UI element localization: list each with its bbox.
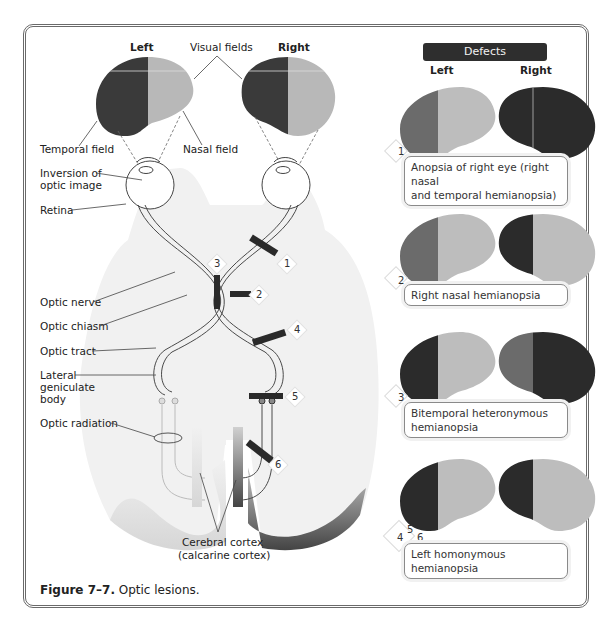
cortex-label-line2: (calcarine cortex) — [178, 549, 270, 561]
lesion-number-3: 3 — [214, 258, 220, 269]
defects-left-label: Left — [430, 64, 453, 76]
lesion-number-4: 4 — [294, 324, 300, 335]
right-eye-label: Right — [278, 41, 310, 53]
defect-4-number-c: 6 — [417, 532, 423, 543]
defect-1-left-field — [400, 87, 498, 162]
defects-header: Defects — [423, 43, 547, 61]
defect-4-number-a: 4 — [397, 532, 403, 543]
defect-4-right-field — [497, 459, 597, 534]
defect-4-number-b: 5 — [407, 524, 413, 535]
defect-1-label-box: Anopsia of right eye (right nasal and te… — [404, 156, 568, 206]
optic-radiation-label: Optic radiation — [40, 417, 118, 429]
defect-1-label-line1: Anopsia of right eye (right nasal — [411, 160, 561, 188]
left-visual-field — [90, 50, 208, 145]
defect-2-label-line1: Right nasal hemianopsia — [411, 288, 561, 302]
defect-2-label-box: Right nasal hemianopsia — [404, 284, 568, 306]
defect-1-label-line2: and temporal hemianopsia) — [411, 188, 561, 202]
optic-pathway-diagram — [0, 0, 607, 629]
lesion-number-6: 6 — [275, 459, 281, 470]
lesion-number-2: 2 — [256, 289, 262, 300]
right-visual-field — [238, 50, 343, 145]
defect-4-label-line1: Left homonymous hemianopsia — [411, 547, 561, 575]
optic-chiasm-label: Optic chiasm — [40, 320, 109, 332]
optic-nerve-label: Optic nerve — [40, 296, 101, 308]
defect-2-left-field — [400, 214, 498, 289]
lgn-label-line2: geniculate — [40, 381, 95, 393]
cortex-label-line1: Cerebral cortex — [182, 536, 263, 548]
left-eye-label: Left — [130, 41, 153, 53]
optic-tract-label: Optic tract — [40, 345, 96, 357]
brain-silhouette — [80, 168, 379, 550]
nasal-field-label: Nasal field — [183, 143, 238, 155]
lesion-2 — [230, 291, 251, 297]
lesion-3 — [214, 275, 220, 309]
left-eye — [126, 158, 174, 210]
left-calcarine-strip — [192, 427, 202, 507]
inversion-label-line1: Inversion of — [40, 167, 102, 179]
caption-label: Figure 7–7. — [40, 583, 115, 597]
temporal-field-label: Temporal field — [40, 143, 114, 155]
defects-right-label: Right — [520, 64, 552, 76]
defect-3-right-field — [497, 332, 597, 407]
defect-4-label-box: Left homonymous hemianopsia — [404, 543, 568, 579]
retina-label: Retina — [40, 204, 73, 216]
lesion-number-1: 1 — [284, 258, 290, 269]
defect-4-left-field — [400, 459, 498, 534]
defect-3-label-line1: Bitemporal heteronymous — [411, 406, 561, 420]
caption-text: Optic lesions. — [115, 583, 200, 597]
figure-caption: Figure 7–7. Optic lesions. — [40, 583, 200, 597]
inversion-label-line2: optic image — [40, 179, 102, 191]
defect-3-left-field — [400, 332, 498, 407]
defect-1-number: 1 — [398, 146, 404, 157]
visual-fields-label: Visual fields — [190, 41, 253, 53]
lgn-label-line1: Lateral — [40, 369, 77, 381]
defect-3-number: 3 — [398, 392, 404, 403]
right-calcarine-strip — [233, 427, 243, 507]
lesion-number-5: 5 — [292, 391, 298, 402]
defect-3-label-line2: hemianopsia — [411, 420, 561, 434]
lesion-5 — [249, 393, 283, 399]
defect-3-label-box: Bitemporal heteronymous hemianopsia — [404, 402, 568, 438]
right-eye — [262, 158, 310, 210]
defect-2-right-field — [497, 214, 597, 289]
defect-1-right-field — [497, 87, 597, 162]
defect-2-number: 2 — [398, 275, 404, 286]
lgn-label-line3: body — [40, 393, 66, 405]
